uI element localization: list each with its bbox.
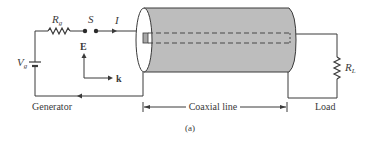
load-label: Load — [315, 101, 336, 112]
source-resistor-icon — [48, 28, 70, 34]
outer-conductor — [144, 8, 296, 72]
inner-conductor-stub — [143, 33, 148, 43]
figure-caption: (a) — [185, 123, 195, 133]
coaxial-line-label: Coaxial line — [189, 101, 238, 112]
generator-label: Generator — [32, 101, 73, 112]
load-resistor-label: RL — [344, 61, 356, 75]
source-voltage-label: Vg — [17, 56, 28, 70]
return-current-arrow-icon — [77, 94, 82, 99]
field-axes — [84, 56, 110, 78]
e-arrowhead-icon — [82, 53, 87, 58]
source-resistor-label: Rg — [51, 13, 63, 27]
current-label: I — [114, 14, 120, 26]
k-arrowhead-icon — [108, 76, 113, 81]
switch-contact-icon — [94, 29, 98, 33]
switch-label: S — [88, 13, 94, 25]
switch-contact-icon — [83, 29, 87, 33]
e-field-label: E — [80, 41, 87, 52]
battery-icon — [29, 62, 41, 66]
k-vector-label: k — [116, 73, 122, 84]
dimension-arrow-right-icon — [280, 105, 286, 109]
coaxial-line-diagram: Rg S I E k Vg RL Generator Coaxial line … — [0, 0, 372, 141]
coaxial-cable — [136, 8, 296, 72]
dimension-arrow-left-icon — [144, 105, 150, 109]
generator-circuit — [35, 28, 143, 96]
current-arrow-icon — [112, 29, 117, 34]
load-resistor-icon — [334, 57, 340, 79]
